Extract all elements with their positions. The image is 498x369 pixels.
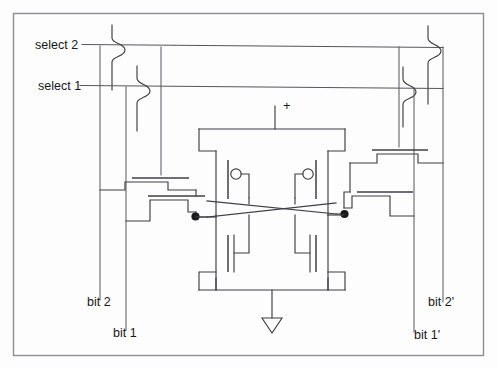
label-bit-2-prime: bit 2' bbox=[428, 295, 454, 309]
pmos-right-inversion-bubble bbox=[303, 169, 313, 179]
storage-node-qbar-dot bbox=[340, 210, 348, 218]
supply-rail bbox=[199, 106, 345, 151]
ground-rail bbox=[199, 272, 345, 333]
pmos-left-inversion-bubble bbox=[231, 169, 241, 179]
nmos-left bbox=[216, 215, 249, 290]
label-select-1: select 1 bbox=[38, 79, 81, 93]
label-bit-2: bit 2 bbox=[87, 295, 111, 309]
label-bit-1-prime: bit 1' bbox=[414, 328, 440, 342]
pass-transistor-left-upper bbox=[100, 47, 196, 190]
schematic-figure: select 2 select 1 bit 2 bit 1 bit 2' bit… bbox=[0, 0, 498, 369]
pass-transistor-right-lower bbox=[344, 163, 414, 216]
word-line-select2 bbox=[82, 25, 443, 104]
schematic-canvas: select 2 select 1 bit 2 bit 1 bit 2' bit… bbox=[0, 0, 498, 369]
label-bit-1: bit 1 bbox=[113, 326, 137, 340]
nmos-right bbox=[295, 215, 328, 290]
pass-transistor-right-upper bbox=[350, 47, 443, 163]
pmos-left bbox=[216, 151, 249, 215]
word-line-select1 bbox=[80, 66, 443, 131]
label-select-2: select 2 bbox=[35, 38, 78, 52]
label-supply-plus: + bbox=[283, 98, 291, 113]
cross-coupling-wires bbox=[207, 198, 336, 217]
ground-symbol bbox=[262, 318, 282, 333]
